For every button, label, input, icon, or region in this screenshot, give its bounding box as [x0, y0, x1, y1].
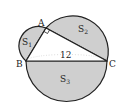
label-c: C — [109, 59, 116, 69]
label-a: A — [37, 18, 45, 28]
label-length-bc: 12 — [60, 50, 71, 60]
label-b: B — [16, 59, 23, 69]
geometry-diagram: A B C S1 S2 S3 12 — [0, 0, 125, 112]
